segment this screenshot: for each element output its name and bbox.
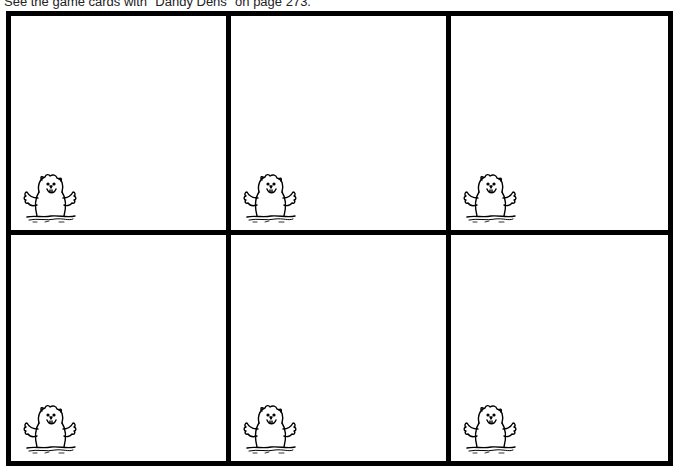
groundhog-icon [459,170,521,224]
groundhog-icon [459,401,521,455]
game-card-3 [451,16,668,235]
groundhog-icon [239,401,301,455]
game-card-2 [231,16,451,235]
page-caption: See the game cards with "Dandy Dens" on … [4,0,311,9]
game-card-4 [11,235,231,461]
groundhog-icon [19,170,81,224]
game-card-grid [6,11,673,466]
groundhog-icon [239,170,301,224]
game-card-6 [451,235,668,461]
game-card-5 [231,235,451,461]
game-card-1 [11,16,231,235]
groundhog-icon [19,401,81,455]
